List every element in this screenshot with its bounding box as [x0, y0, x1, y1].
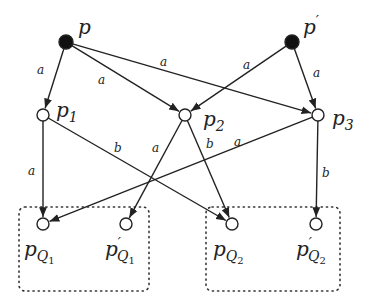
edge-p2-to-pQ2	[187, 121, 229, 218]
edge-label: a	[313, 66, 320, 80]
edge-p3-to-pprimeQ2	[316, 121, 318, 217]
node-label-p1: p1	[56, 98, 78, 125]
edge-label: a	[234, 135, 241, 149]
node-pQ1	[37, 218, 49, 230]
edge-label: b	[206, 137, 214, 151]
node-label-pprime: p′	[303, 13, 320, 39]
node-p1	[37, 109, 49, 121]
edge-p1-to-pQ2	[48, 118, 226, 221]
edge-p3-to-pQ1	[50, 117, 313, 221]
node-p3	[312, 109, 324, 121]
edge-label: a	[160, 55, 167, 69]
edge-label: a	[28, 164, 35, 178]
node-pprime	[285, 35, 299, 49]
node-label-p: p	[78, 15, 91, 39]
edge-label: a	[243, 58, 250, 72]
edge-label: b	[322, 166, 330, 180]
node-p	[59, 35, 73, 49]
node-label-pQ2: pQ2	[213, 237, 244, 266]
edge-label: b	[114, 141, 122, 155]
edge-label: a	[98, 73, 105, 87]
edge-label: a	[152, 141, 159, 155]
node-pprimeQ1	[120, 218, 132, 230]
node-label-p3: p3	[332, 106, 354, 133]
edge-pprime-to-p2	[191, 45, 288, 111]
node-pQ2	[226, 218, 238, 230]
node-label-pprimeQ1: p′Q1	[105, 235, 135, 266]
node-label-p2: p2	[203, 107, 225, 134]
node-p2	[179, 109, 191, 121]
node-label-pQ1: pQ1	[24, 237, 55, 266]
node-pprimeQ2	[310, 218, 322, 230]
node-label-pprimeQ2: p′Q2	[296, 235, 326, 266]
edge-label: a	[37, 63, 44, 77]
graph-diagram: aaaaaababab pp′p1p2p3pQ1p′Q1pQ2p′Q2	[0, 0, 372, 308]
